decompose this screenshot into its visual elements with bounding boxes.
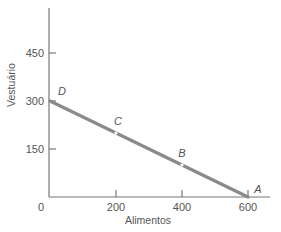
y-tick-label-300: 300: [26, 95, 44, 107]
x-tick-label-600: 600: [239, 201, 257, 213]
budget-line-chart: 150300450 200400600 0 Alimentos Vestuári…: [0, 0, 281, 232]
x-tick-label-400: 400: [173, 201, 191, 213]
y-tick-label-150: 150: [26, 143, 44, 155]
point-label-B: B: [178, 147, 185, 159]
series-budget-line: [50, 101, 248, 197]
x-tick-label-200: 200: [107, 201, 125, 213]
x-axis-label: Alimentos: [125, 214, 171, 226]
point-label-D: D: [58, 85, 66, 97]
point-marker-B: [180, 163, 183, 166]
y-tick-label-450: 450: [26, 47, 44, 59]
y-axis-label: Vestuário: [5, 63, 17, 107]
point-marker-C: [114, 131, 117, 134]
point-label-C: C: [114, 115, 122, 127]
origin-label: 0: [38, 201, 44, 213]
point-label-A: A: [253, 183, 261, 195]
